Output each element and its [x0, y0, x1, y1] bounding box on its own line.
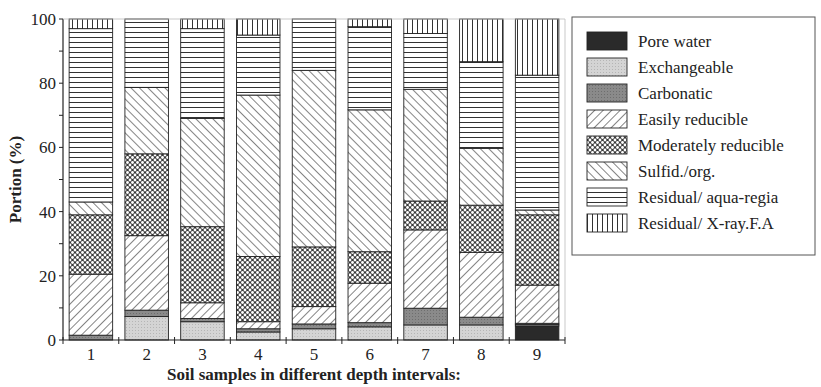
- legend-swatch-icon: [587, 188, 627, 206]
- bar-segment: [125, 310, 169, 316]
- legend-swatch-icon: [587, 214, 627, 232]
- bar-segment: [236, 95, 280, 256]
- bar-segment: [292, 307, 336, 324]
- bar-sample-2: [125, 19, 169, 340]
- bar-segment: [348, 27, 392, 110]
- y-axis-label: Portion (%): [6, 136, 25, 223]
- x-tick-label: 9: [533, 345, 542, 364]
- bar-sample-5: [292, 19, 336, 340]
- bar-segment: [348, 323, 392, 327]
- x-tick-label: 5: [310, 345, 319, 364]
- bar-segment: [181, 19, 225, 29]
- bar-segment: [236, 322, 280, 329]
- bar-segment: [69, 29, 113, 202]
- bar-segment: [125, 154, 169, 236]
- bar-segment: [292, 324, 336, 329]
- bar-segment: [460, 317, 504, 325]
- bar-segment: [181, 318, 225, 321]
- legend-swatch-icon: [587, 84, 627, 102]
- bar-segment: [125, 87, 169, 153]
- bar-segment: [125, 236, 169, 310]
- bar-sample-7: [404, 19, 448, 340]
- bar-segment: [460, 62, 504, 149]
- legend-item: Sulfid./org.: [587, 162, 715, 181]
- bar-sample-8: [460, 19, 504, 340]
- bar-segment: [404, 308, 448, 325]
- bar-segment: [515, 210, 559, 215]
- bar-segment: [460, 148, 504, 205]
- legend-label: Exchangeable: [638, 58, 733, 77]
- legend-item: Moderately reducible: [587, 136, 784, 155]
- bar-segment: [460, 19, 504, 62]
- bar-segment: [69, 335, 113, 340]
- bar-sample-6: [348, 19, 392, 340]
- legend-swatch-icon: [587, 110, 627, 128]
- bar-segment: [236, 35, 280, 95]
- bar-segment: [348, 327, 392, 340]
- legend-swatch-icon: [587, 58, 627, 76]
- x-tick-label: 8: [477, 345, 486, 364]
- bar-segment: [404, 325, 448, 340]
- legend-label: Pore water: [638, 32, 712, 51]
- bar-segment: [69, 202, 113, 215]
- x-tick-label: 4: [254, 345, 263, 364]
- bar-segment: [404, 89, 448, 201]
- y-tick-label: 0: [48, 331, 57, 350]
- bar-segment: [236, 257, 280, 322]
- legend-label: Easily reducible: [638, 110, 748, 129]
- bar-segment: [125, 317, 169, 340]
- x-tick-label: 6: [366, 345, 375, 364]
- x-axis-label: Soil samples in different depth interval…: [167, 365, 461, 384]
- bar-segment: [236, 329, 280, 332]
- bar-segment: [236, 332, 280, 340]
- legend-item: Residual/ aqua-regia: [587, 188, 779, 207]
- y-tick-label: 20: [39, 267, 56, 286]
- bar-segment: [181, 29, 225, 119]
- bar-segment: [292, 19, 336, 70]
- legend-item: Residual/ X-ray.F.A: [587, 214, 775, 233]
- legend-swatch-icon: [587, 162, 627, 180]
- bar-segment: [348, 283, 392, 322]
- legend-label: Residual/ X-ray.F.A: [638, 214, 775, 233]
- legend-swatch-icon: [587, 136, 627, 154]
- legend: Pore waterExchangeableCarbonaticEasily r…: [572, 17, 815, 255]
- y-tick-label: 80: [39, 74, 56, 93]
- legend-item: Exchangeable: [587, 58, 733, 77]
- bar-segment: [515, 75, 559, 210]
- bar-segment: [292, 329, 336, 340]
- bar-segment: [404, 230, 448, 308]
- legend-label: Carbonatic: [638, 84, 713, 103]
- bar-segment: [404, 19, 448, 33]
- bar-sample-9: [515, 19, 559, 340]
- bar-segment: [404, 201, 448, 230]
- bar-segment: [515, 215, 559, 285]
- bar-segment: [292, 70, 336, 247]
- legend-item: Pore water: [587, 32, 712, 51]
- y-tick-label: 100: [31, 10, 57, 29]
- plot-area: [69, 19, 559, 340]
- bar-sample-4: [236, 19, 280, 340]
- bar-segment: [460, 325, 504, 340]
- bar-sample-1: [69, 19, 113, 340]
- bar-segment: [460, 205, 504, 252]
- legend-swatch-icon: [587, 32, 627, 50]
- bar-segment: [460, 252, 504, 317]
- legend-label: Moderately reducible: [638, 136, 784, 155]
- bar-segment: [69, 274, 113, 335]
- legend-item: Easily reducible: [587, 110, 748, 129]
- y-tick-label: 40: [39, 203, 56, 222]
- bar-sample-3: [181, 19, 225, 340]
- bar-segment: [348, 110, 392, 252]
- bar-segment: [181, 119, 225, 227]
- legend-item: Carbonatic: [587, 84, 713, 103]
- bar-segment: [69, 19, 113, 29]
- x-tick-label: 2: [142, 345, 151, 364]
- y-tick-label: 60: [39, 138, 56, 157]
- bar-segment: [125, 19, 169, 87]
- bar-segment: [181, 227, 225, 303]
- bar-segment: [236, 19, 280, 35]
- x-tick-label: 1: [87, 345, 96, 364]
- bar-segment: [404, 33, 448, 89]
- x-tick-label: 3: [198, 345, 207, 364]
- bar-segment: [515, 19, 559, 75]
